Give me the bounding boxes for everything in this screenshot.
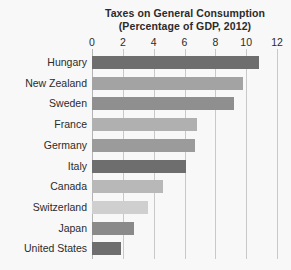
x-axis-tick-labels: 024681012 <box>0 36 291 50</box>
category-label-germany: Germany <box>44 139 87 152</box>
chart-title-block: Taxes on General Consumption (Percentage… <box>92 7 278 33</box>
bar-row: France <box>92 114 277 135</box>
gridline-12 <box>277 49 278 259</box>
category-label-switzerland: Switzerland <box>33 201 87 214</box>
category-label-canada: Canada <box>50 180 87 193</box>
chart-title: Taxes on General Consumption <box>92 7 278 20</box>
bar-row: Sweden <box>92 93 277 114</box>
bar-new-zealand <box>92 77 243 90</box>
bar-row: Japan <box>92 218 277 239</box>
bar-japan <box>92 222 134 235</box>
category-label-japan: Japan <box>58 222 87 235</box>
category-label-hungary: Hungary <box>47 56 87 69</box>
bar-france <box>92 118 197 131</box>
bar-row: United States <box>92 238 277 259</box>
category-label-united-states: United States <box>24 242 87 255</box>
category-label-sweden: Sweden <box>49 97 87 110</box>
bar-canada <box>92 180 163 193</box>
bar-hungary <box>92 56 259 69</box>
bar-chart-figure: Taxes on General Consumption (Percentage… <box>0 0 291 270</box>
category-label-new-zealand: New Zealand <box>25 77 87 90</box>
bar-switzerland <box>92 201 148 214</box>
x-tick-label-4: 4 <box>151 36 157 48</box>
x-tick-label-6: 6 <box>182 36 188 48</box>
bar-united-states <box>92 242 121 255</box>
category-label-france: France <box>54 118 87 131</box>
bar-sweden <box>92 97 234 110</box>
bar-row: Hungary <box>92 52 277 73</box>
bar-row: Canada <box>92 176 277 197</box>
bar-row: Switzerland <box>92 197 277 218</box>
bar-row: Germany <box>92 135 277 156</box>
x-tick-label-12: 12 <box>271 36 283 48</box>
bar-row: New Zealand <box>92 73 277 94</box>
plot-area: HungaryNew ZealandSwedenFranceGermanyIta… <box>92 52 277 259</box>
x-tick-label-0: 0 <box>89 36 95 48</box>
bar-row: Italy <box>92 156 277 177</box>
category-label-italy: Italy <box>68 160 87 173</box>
bar-italy <box>92 160 186 173</box>
bars-layer: HungaryNew ZealandSwedenFranceGermanyIta… <box>92 52 277 259</box>
bar-germany <box>92 139 195 152</box>
chart-subtitle: (Percentage of GDP, 2012) <box>92 20 278 33</box>
x-tick-label-8: 8 <box>212 36 218 48</box>
x-tick-label-2: 2 <box>120 36 126 48</box>
x-tick-label-10: 10 <box>240 36 252 48</box>
